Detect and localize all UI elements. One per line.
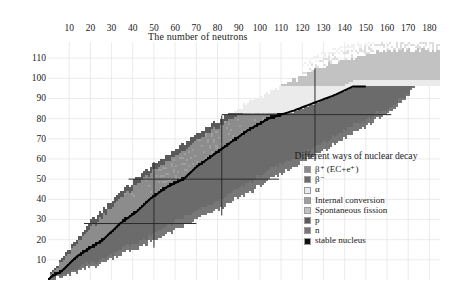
cell-beta-plus (112, 213, 114, 215)
cell-beta-minus (245, 159, 247, 161)
cell-beta-minus (228, 191, 230, 193)
cell-beta-minus (385, 109, 387, 111)
cell-beta-minus (82, 260, 84, 262)
cell-beta-plus (107, 217, 109, 219)
cell-beta-minus (213, 161, 215, 163)
cell-beta-minus (338, 98, 340, 100)
cell-beta-minus (237, 171, 239, 173)
cell-beta-minus (237, 185, 239, 187)
cell-beta-plus (226, 139, 228, 141)
cell-n (162, 234, 164, 236)
cell-beta-plus (215, 149, 217, 151)
cell-beta-minus (336, 121, 338, 123)
legend-item[interactable]: β⁺ (EC+e⁺) (304, 165, 444, 175)
cell-beta-minus (254, 149, 256, 151)
cell-beta-minus (266, 141, 268, 143)
cell-sf (385, 56, 387, 58)
cell-beta-minus (319, 103, 321, 105)
cell-n (196, 211, 198, 213)
cell-beta-plus (205, 151, 207, 153)
cell-beta-minus (287, 135, 289, 137)
cell-n (224, 199, 226, 201)
cell-beta-minus (190, 207, 192, 209)
cell-beta-minus (381, 98, 383, 100)
cell-beta-minus (237, 173, 239, 175)
cell-p (156, 165, 158, 167)
cell-beta-minus (353, 107, 355, 109)
cell-sf (294, 78, 296, 80)
cell-beta-plus (126, 201, 128, 203)
cell-beta-minus (374, 96, 376, 98)
cell-beta-minus (137, 215, 139, 217)
cell-sf (330, 78, 332, 80)
cell-beta-minus (292, 131, 294, 133)
cell-beta-plus (226, 121, 228, 123)
legend-item[interactable]: n (304, 226, 444, 236)
cell-beta-minus (241, 181, 243, 183)
cell-p (194, 135, 196, 137)
cell-sf (427, 72, 429, 74)
cell-beta-minus (328, 123, 330, 125)
cell-sf (317, 68, 319, 70)
cell-alpha (292, 86, 294, 88)
cell-beta-minus (349, 109, 351, 111)
cell-sf (391, 66, 393, 68)
cell-superheavy-halo (343, 52, 345, 54)
cell-superheavy-halo (345, 50, 347, 52)
cell-sf (387, 68, 389, 70)
cell-beta-minus (251, 165, 253, 167)
cell-alpha (249, 103, 251, 105)
cell-beta-plus (84, 240, 86, 242)
cell-beta-minus (307, 143, 309, 145)
cell-beta-minus (309, 127, 311, 129)
cell-beta-minus (292, 135, 294, 137)
cell-n (228, 195, 230, 197)
cell-beta-plus (148, 181, 150, 183)
cell-beta-plus (99, 217, 101, 219)
cell-beta-minus (143, 226, 145, 228)
cell-beta-minus (292, 133, 294, 135)
legend-item[interactable]: Spontaneous fission (304, 206, 444, 216)
cell-beta-plus (92, 240, 94, 242)
cell-beta-minus (311, 135, 313, 137)
cell-beta-minus (226, 155, 228, 157)
cell-sf (368, 56, 370, 58)
legend-item[interactable]: p (304, 216, 444, 226)
cell-beta-minus (364, 121, 366, 123)
cell-beta-minus (256, 157, 258, 159)
cell-beta-minus (393, 100, 395, 102)
cell-superheavy-halo (438, 44, 440, 46)
cell-beta-plus (107, 215, 109, 217)
cell-beta-plus (103, 232, 105, 234)
legend-item[interactable]: α (304, 185, 444, 195)
cell-sf (328, 62, 330, 64)
legend-item[interactable]: Internal conversion (304, 196, 444, 206)
cell-beta-minus (256, 159, 258, 161)
cell-superheavy-halo (332, 48, 334, 50)
cell-beta-plus (143, 183, 145, 185)
cell-beta-minus (353, 119, 355, 121)
cell-sf (412, 64, 414, 66)
cell-alpha (427, 84, 429, 86)
cell-beta-minus (224, 193, 226, 195)
cell-alpha (427, 80, 429, 82)
cell-superheavy-halo (429, 42, 431, 44)
cell-ic (205, 135, 207, 137)
cell-beta-minus (188, 213, 190, 215)
cell-beta-plus (148, 191, 150, 193)
cell-beta-minus (275, 123, 277, 125)
cell-alpha (247, 111, 249, 113)
cell-beta-minus (158, 228, 160, 230)
cell-beta-minus (323, 119, 325, 121)
legend-item[interactable]: stable nucleus (304, 236, 444, 246)
cell-beta-minus (404, 92, 406, 94)
cell-beta-minus (304, 127, 306, 129)
legend-item[interactable]: β⁻ (304, 175, 444, 185)
cell-beta-minus (179, 183, 181, 185)
cell-beta-minus (300, 121, 302, 123)
cell-n (90, 264, 92, 266)
cell-beta-minus (175, 199, 177, 201)
cell-beta-minus (300, 129, 302, 131)
cell-beta-minus (148, 230, 150, 232)
cell-alpha (264, 107, 266, 109)
